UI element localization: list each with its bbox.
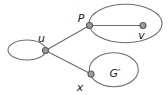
label-g-prime: G′ xyxy=(109,67,121,80)
node-P xyxy=(87,23,93,29)
label-v: v xyxy=(138,29,145,42)
diagram-canvas: u P v x G′ xyxy=(0,0,168,95)
node-x xyxy=(88,71,94,77)
label-P: P xyxy=(78,12,85,25)
label-x: x xyxy=(76,81,84,94)
edge-u-x xyxy=(46,51,92,75)
edge-u-P xyxy=(46,26,90,51)
graph-diagram-svg: u P v x G′ xyxy=(0,0,168,95)
top-right-set-ellipse-v-component xyxy=(89,4,162,42)
label-u: u xyxy=(38,32,45,45)
node-u xyxy=(43,48,49,54)
